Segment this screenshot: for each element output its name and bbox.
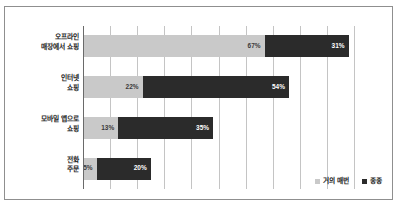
legend-item[interactable]: 종종 <box>362 178 382 185</box>
bar-segment: 31% <box>265 35 349 57</box>
bar-segment: 20% <box>97 158 151 180</box>
bar-row: 13%35% <box>83 117 213 139</box>
bar-segment: 5% <box>83 158 97 180</box>
bar-value-label: 54% <box>272 84 289 91</box>
category-label: 인터넷 쇼핑 <box>5 73 79 93</box>
gridline <box>354 26 355 189</box>
category-axis-labels: 오프라인 매장에서 쇼핑인터넷 쇼핑모바일 앱으로 쇼핑전화 주문 <box>5 26 79 189</box>
bar-segment: 35% <box>118 117 213 139</box>
bar-value-label: 31% <box>332 43 349 50</box>
category-label: 오프라인 매장에서 쇼핑 <box>5 32 79 52</box>
bar-row: 67%31% <box>83 35 349 57</box>
bar-segment: 13% <box>83 117 118 139</box>
bar-value-label: 5% <box>83 165 96 172</box>
legend-swatch-icon <box>362 179 367 184</box>
y-axis-line <box>83 26 84 189</box>
bar-segment: 22% <box>83 76 143 98</box>
bar-segment: 67% <box>83 35 265 57</box>
category-label: 모바일 앱으로 쇼핑 <box>5 114 79 134</box>
bar-value-label: 13% <box>101 125 118 132</box>
bar-segment: 54% <box>143 76 289 98</box>
bar-row: 22%54% <box>83 76 289 98</box>
chart-legend: 거의 매번종종 <box>315 178 382 185</box>
legend-item[interactable]: 거의 매번 <box>315 178 349 185</box>
legend-label: 거의 매번 <box>323 178 349 185</box>
bar-row: 5%20% <box>83 158 151 180</box>
legend-swatch-icon <box>315 179 320 184</box>
bar-value-label: 67% <box>248 43 265 50</box>
plot-area: 67%31%22%54%13%35%5%20% <box>83 26 354 189</box>
bar-value-label: 22% <box>126 84 143 91</box>
legend-label: 종종 <box>370 178 382 185</box>
chart-frame: 67%31%22%54%13%35%5%20% 오프라인 매장에서 쇼핑인터넷 … <box>4 6 393 200</box>
bar-value-label: 20% <box>134 165 151 172</box>
category-label: 전화 주문 <box>5 155 79 175</box>
bar-value-label: 35% <box>196 125 213 132</box>
